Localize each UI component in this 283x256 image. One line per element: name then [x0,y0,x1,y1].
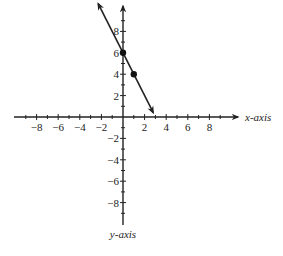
y-tick-label: −6 [107,175,119,187]
x-tick-label: −2 [96,121,108,133]
y-tick-label: −8 [107,197,119,209]
coordinate-plane: −8−6−4−22468 8642−2−4−6−8 x-axis y-axis [0,0,283,256]
x-tick-label: −8 [31,121,43,133]
line-series [98,4,153,113]
x-tick-label: −6 [52,121,64,133]
data-point [120,50,126,56]
x-axis-label: x-axis [244,111,271,123]
x-tick-label: 8 [207,121,213,133]
y-tick-label: 6 [114,47,120,59]
y-tick-label: −2 [107,132,119,144]
x-tick-labels: −8−6−4−22468 [31,121,213,133]
plotted-line [98,4,153,113]
x-tick-label: −4 [74,121,86,133]
x-tick-label: 6 [185,121,191,133]
y-axis-label: y-axis [109,228,136,240]
y-tick-label: −4 [107,154,119,166]
x-tick-label: 4 [163,121,169,133]
y-tick-label: 4 [114,68,120,80]
y-tick-label: 2 [114,90,120,102]
x-tick-label: 2 [142,121,148,133]
data-point [131,71,137,77]
